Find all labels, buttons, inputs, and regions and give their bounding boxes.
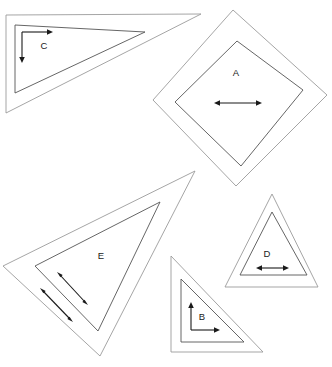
shape-d-group: D [225, 194, 318, 287]
shape-d-arrow-head-right [283, 265, 289, 271]
shape-b-horizontal-arrow-head [214, 327, 220, 333]
shape-e-group: E [3, 171, 195, 356]
shape-c-vertical-arrow-head [19, 57, 25, 63]
shape-e-inner-outline [35, 202, 160, 331]
shape-a-arrow-head-right [256, 100, 262, 106]
shape-b-outer-outline [171, 256, 263, 352]
shape-a-arrow-head-left [214, 100, 220, 106]
shape-c-horizontal-arrow-head [47, 29, 53, 35]
shape-c-outer-outline [6, 14, 201, 113]
shape-e-inner-arrow-line [60, 275, 85, 302]
shape-c-label: C [41, 40, 48, 51]
shape-b-label: B [199, 311, 205, 322]
shape-a-label: A [233, 67, 240, 78]
shape-d-arrow-head-left [256, 265, 262, 271]
shape-c-inner-outline [15, 25, 145, 93]
geometry-figure-diagram: C A E [0, 0, 332, 367]
shape-e-outer-arrow-line [43, 291, 70, 319]
shape-e-label: E [98, 250, 104, 261]
figure-canvas-container: C A E [0, 0, 332, 367]
shape-b-vertical-arrow-head [188, 302, 194, 308]
shape-c-group: C [6, 14, 201, 113]
shape-b-group: B [171, 256, 263, 352]
shape-a-group: A [153, 10, 327, 186]
shape-d-outer-outline [225, 194, 318, 287]
shape-d-label: D [264, 248, 271, 259]
